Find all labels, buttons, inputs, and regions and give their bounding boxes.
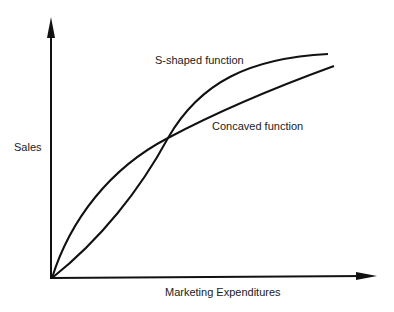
diagram-canvas (0, 0, 394, 312)
x-axis-arrow-icon (356, 272, 377, 280)
y-axis-arrow-icon (47, 17, 55, 38)
s-shaped-function-curve (52, 54, 328, 278)
s-shaped-function-label: S-shaped function (155, 54, 244, 66)
x-axis (51, 276, 366, 278)
y-axis-label: Sales (14, 141, 42, 153)
concaved-function-curve (52, 66, 334, 278)
x-axis-label: Marketing Expenditures (165, 286, 281, 298)
concaved-function-label: Concaved function (212, 120, 303, 132)
